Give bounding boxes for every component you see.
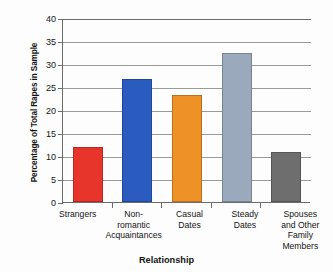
bar-slot <box>113 18 163 202</box>
x-category-label: Strangers <box>50 209 105 220</box>
x-category-label: Spousesand OtherFamilyMembers <box>273 209 328 251</box>
x-axis-category-labels: StrangersNon-romanticAcquaintancesCasual… <box>50 209 328 251</box>
bar-slot <box>162 18 212 202</box>
y-tick-label: 30 <box>46 60 56 70</box>
y-tick-label: 5 <box>51 175 56 185</box>
x-tick-mark <box>260 203 261 208</box>
x-category-label-line: Steady <box>217 209 272 220</box>
x-tick-mark <box>161 203 162 208</box>
bar-series <box>63 18 311 202</box>
x-axis-title: Relationship <box>0 255 333 265</box>
x-tick-mark <box>211 203 212 208</box>
y-tick-label: 20 <box>46 106 56 116</box>
plot-area: 0510152025303540 <box>62 19 310 203</box>
y-tick-label: 0 <box>51 198 56 208</box>
x-category-label: CasualDates <box>162 209 217 230</box>
x-category-label-line: Strangers <box>50 209 105 220</box>
bar-slot <box>261 18 311 202</box>
y-tick-label: 35 <box>46 37 56 47</box>
y-tick-label: 15 <box>46 129 56 139</box>
cut-off-caption <box>36 0 306 5</box>
x-category-label: Non-romanticAcquaintances <box>105 209 161 241</box>
x-category-label: SteadyDates <box>217 209 272 230</box>
x-category-label-line: Acquaintances <box>105 230 161 241</box>
bar[interactable] <box>222 53 252 203</box>
bar[interactable] <box>172 95 202 202</box>
y-tick-label: 10 <box>46 152 56 162</box>
bar[interactable] <box>271 152 301 202</box>
x-tick-mark <box>112 203 113 208</box>
bar[interactable] <box>122 79 152 202</box>
x-category-label-line: romantic <box>105 220 161 231</box>
x-category-label-line: Family <box>273 230 328 241</box>
y-axis-title: Percentage of Total Rapes in Sample <box>30 20 39 205</box>
bar[interactable] <box>73 147 103 202</box>
bar-chart-figure: Percentage of Total Rapes in Sample 0510… <box>0 0 333 272</box>
x-category-label-line: and Other <box>273 220 328 231</box>
y-tick-label: 25 <box>46 83 56 93</box>
x-axis-ticks <box>62 203 310 208</box>
x-category-label-line: Spouses <box>273 209 328 220</box>
bar-slot <box>212 18 262 202</box>
x-category-label-line: Members <box>273 241 328 252</box>
x-category-label-line: Non- <box>105 209 161 220</box>
x-category-label-line: Casual <box>162 209 217 220</box>
x-category-label-line: Dates <box>217 220 272 231</box>
x-category-label-line: Dates <box>162 220 217 231</box>
bar-slot <box>63 18 113 202</box>
y-tick-label: 40 <box>46 14 56 24</box>
